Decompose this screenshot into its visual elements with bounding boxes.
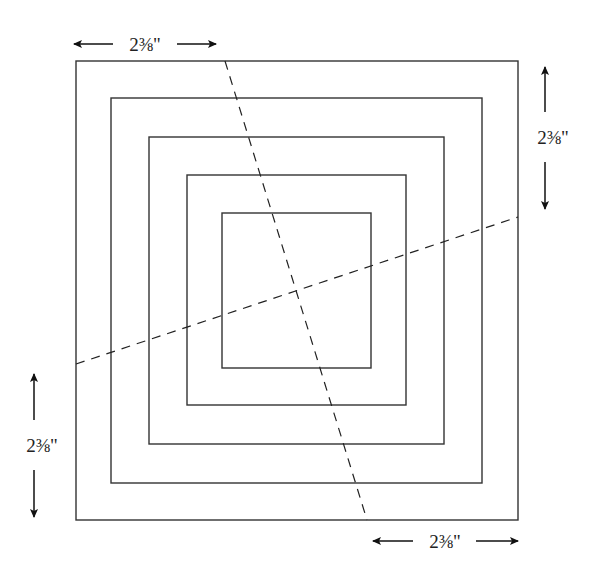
dimension-label-left: 2⅜"	[26, 435, 58, 456]
dimension-left: 2⅜"	[26, 374, 58, 517]
dimension-label-top: 2⅜"	[129, 34, 161, 55]
diagram-canvas: 2⅜" 2⅜" 2⅜" 2⅜"	[0, 0, 600, 579]
dimension-top: 2⅜"	[74, 34, 216, 55]
dimension-label-right: 2⅜"	[537, 127, 569, 148]
square-4	[187, 175, 406, 405]
dimension-bottom: 2⅜"	[373, 531, 518, 552]
dimension-right: 2⅜"	[537, 67, 569, 209]
cut-line-shallow	[76, 217, 518, 364]
dimension-label-bottom: 2⅜"	[429, 531, 461, 552]
